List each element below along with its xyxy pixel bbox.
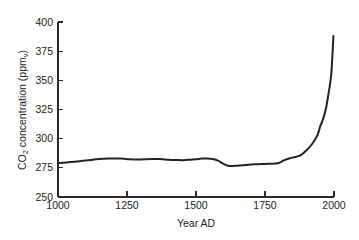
- x-axis-ticks: [58, 191, 334, 197]
- y-axis-title-rest: concentration (ppm: [16, 57, 28, 150]
- x-tick-labels: 1000 1250 1500 1750 2000: [46, 199, 346, 211]
- x-tick-label-1000: 1000: [46, 199, 70, 211]
- y-tick-label-300: 300: [35, 132, 53, 144]
- y-tick-label-375: 375: [35, 45, 53, 57]
- y-axis-title-end: ): [16, 50, 28, 54]
- x-tick-label-1250: 1250: [115, 199, 139, 211]
- x-tick-label-1500: 1500: [184, 199, 208, 211]
- co2-concentration-chart: 250 275 300 325 350 375 400 1000 1250 15…: [0, 0, 359, 240]
- y-axis-title-co: CO: [16, 154, 28, 170]
- y-tick-labels: 250 275 300 325 350 375 400: [35, 16, 53, 203]
- y-tick-label-325: 325: [35, 103, 53, 115]
- y-tick-label-400: 400: [35, 16, 53, 28]
- x-axis-title: Year AD: [177, 217, 216, 229]
- chart-canvas: 250 275 300 325 350 375 400 1000 1250 15…: [0, 0, 359, 240]
- x-tick-label-2000: 2000: [322, 199, 346, 211]
- y-axis-title: CO2 concentration (ppmv): [16, 50, 30, 170]
- axis-spines: [58, 22, 334, 197]
- x-tick-label-1750: 1750: [253, 199, 277, 211]
- y-tick-label-350: 350: [35, 74, 53, 86]
- co2-series-line: [58, 36, 333, 166]
- y-tick-label-275: 275: [35, 161, 53, 173]
- y-axis-ticks: [58, 22, 63, 197]
